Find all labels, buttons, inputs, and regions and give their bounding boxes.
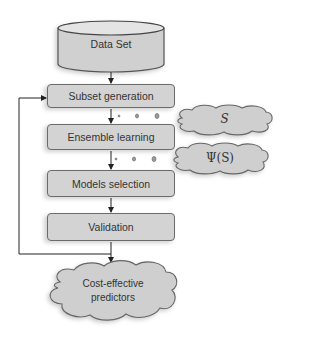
ellipsis-dots-1: [118, 113, 159, 118]
step-label: Models selection: [72, 178, 150, 190]
step-label: Ensemble learning: [68, 131, 155, 143]
output-label-line1: Cost-effective: [52, 277, 174, 291]
data-set-label: Data Set: [58, 38, 164, 50]
step-models-selection: Models selection: [47, 170, 175, 197]
output-label-line2: predictors: [52, 291, 174, 305]
cloud-s-label: S: [176, 112, 273, 126]
step-validation: Validation: [47, 213, 175, 241]
step-subset-generation: Subset generation: [47, 84, 175, 108]
cloud-psi-s-label: Ψ(S): [172, 151, 268, 165]
output-label: Cost-effective predictors: [52, 277, 174, 305]
step-ensemble-learning: Ensemble learning: [47, 124, 175, 150]
step-label: Subset generation: [68, 90, 153, 102]
ellipsis-dots-2: [115, 156, 156, 161]
step-label: Validation: [88, 221, 133, 233]
